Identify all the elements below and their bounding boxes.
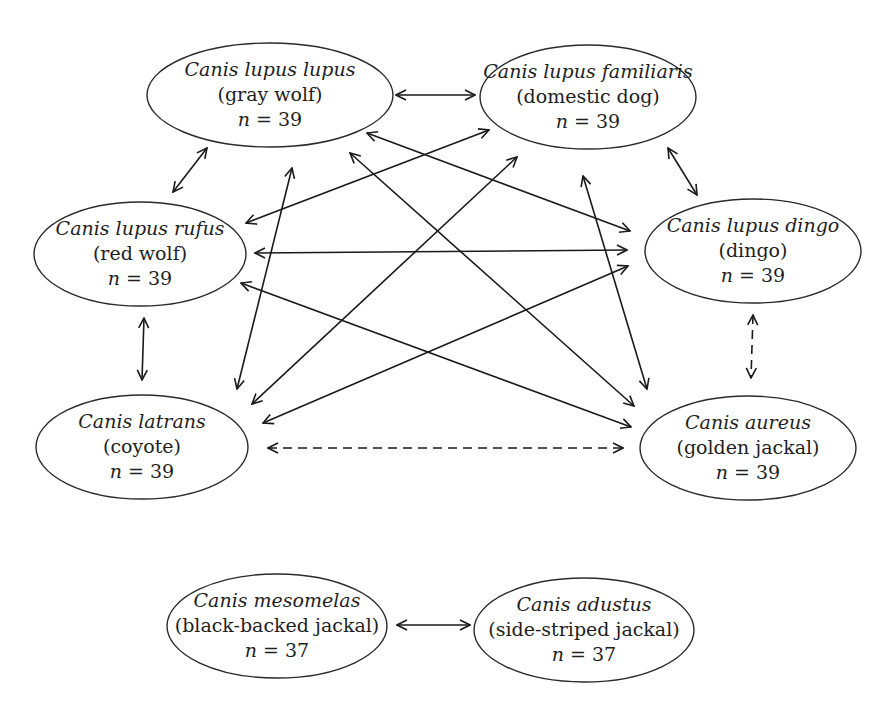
node-adustus: Canis adustus(side-striped jackal)n = 37 bbox=[474, 578, 694, 682]
double-arrow-dingo-aureus bbox=[751, 315, 753, 378]
nodes-layer: Canis lupus lupus(gray wolf)n = 39Canis … bbox=[34, 43, 861, 682]
common-name: (red wolf) bbox=[93, 242, 187, 264]
node-familiaris: Canis lupus familiaris(domestic dog)n = … bbox=[480, 45, 696, 149]
double-arrow-familiaris-latrans bbox=[252, 157, 517, 404]
node-aureus: Canis aureus(golden jackal)n = 39 bbox=[640, 396, 856, 500]
node-dingo: Canis lupus dingo(dingo)n = 39 bbox=[645, 199, 861, 303]
sample-size: n = 39 bbox=[108, 267, 172, 289]
sample-size: n = 37 bbox=[552, 643, 616, 665]
sample-size: n = 39 bbox=[238, 108, 302, 130]
common-name: (dingo) bbox=[719, 239, 788, 261]
double-arrow-familiaris-dingo bbox=[668, 148, 697, 195]
scientific-name: Canis lupus dingo bbox=[667, 214, 840, 236]
node-mesomelas: Canis mesomelas(black-backed jackal)n = … bbox=[167, 574, 387, 678]
sample-size: n = 39 bbox=[556, 110, 620, 132]
node-rufus: Canis lupus rufus(red wolf)n = 39 bbox=[34, 202, 246, 306]
double-arrow-rufus-dingo bbox=[255, 250, 627, 253]
common-name: (domestic dog) bbox=[516, 85, 660, 107]
sample-size: n = 39 bbox=[110, 460, 174, 482]
double-arrow-lupus-latrans bbox=[237, 168, 292, 389]
double-arrow-rufus-aureus bbox=[241, 283, 631, 427]
common-name: (side-striped jackal) bbox=[488, 618, 679, 640]
scientific-name: Canis latrans bbox=[78, 410, 206, 432]
scientific-name: Canis lupus familiaris bbox=[483, 60, 693, 82]
double-arrow-familiaris-aureus bbox=[583, 176, 647, 389]
scientific-name: Canis aureus bbox=[685, 411, 811, 433]
scientific-name: Canis adustus bbox=[516, 593, 651, 615]
scientific-name: Canis lupus rufus bbox=[56, 217, 225, 239]
common-name: (black-backed jackal) bbox=[175, 614, 380, 636]
sample-size: n = 37 bbox=[245, 639, 309, 661]
canis-comparison-diagram: Canis lupus lupus(gray wolf)n = 39Canis … bbox=[0, 0, 888, 707]
common-name: (coyote) bbox=[103, 435, 181, 457]
node-lupus: Canis lupus lupus(gray wolf)n = 39 bbox=[147, 43, 393, 147]
common-name: (golden jackal) bbox=[677, 436, 820, 458]
scientific-name: Canis mesomelas bbox=[194, 589, 361, 611]
double-arrow-lupus-rufus bbox=[173, 148, 207, 192]
scientific-name: Canis lupus lupus bbox=[185, 58, 356, 80]
double-arrow-rufus-latrans bbox=[142, 318, 144, 380]
sample-size: n = 39 bbox=[721, 264, 785, 286]
edges-layer bbox=[142, 95, 753, 625]
double-arrow-dingo-latrans bbox=[263, 266, 628, 423]
node-latrans: Canis latrans(coyote)n = 39 bbox=[36, 395, 248, 499]
sample-size: n = 39 bbox=[716, 461, 780, 483]
common-name: (gray wolf) bbox=[218, 83, 323, 105]
